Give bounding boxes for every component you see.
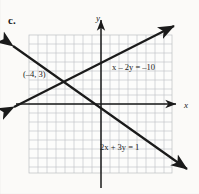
intersection-point-label: (–4, 3) [23,69,46,79]
figure-canvas: c. y x (–4, 3) x – 2y = –10 2x + 3y = 1 [0,0,199,194]
axis-x-label: x [183,100,188,110]
line2-equation-label: 2x + 3y = 1 [100,142,139,152]
line1-equation-label: x – 2y = –10 [112,62,155,72]
part-label: c. [8,14,16,26]
axis-y-label: y [95,13,100,23]
